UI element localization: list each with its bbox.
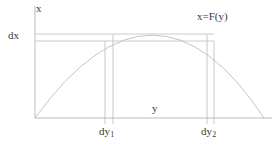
dy2-label-subscript: 2 <box>212 130 216 139</box>
dy2-label-base: dy <box>201 125 212 137</box>
horizontal-axis-label: y <box>152 103 158 114</box>
dy1-label: dy1 <box>99 126 114 139</box>
dy2-label: dy2 <box>201 126 216 139</box>
curve-x-equals-f-of-y <box>35 35 264 118</box>
dy1-label-base: dy <box>99 125 110 137</box>
figure-container: x y dx x=F(y) dy1 dy2 <box>0 0 275 147</box>
dy1-label-subscript: 1 <box>110 130 114 139</box>
curve-label: x=F(y) <box>197 11 228 22</box>
dx-band-label: dx <box>8 30 19 41</box>
vertical-axis-label: x <box>36 3 42 14</box>
diagram-canvas <box>0 0 275 147</box>
